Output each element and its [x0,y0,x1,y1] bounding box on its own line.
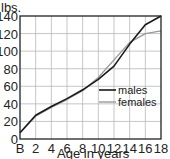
y-tick-label: 20 [4,114,18,129]
x-tick-label: 16 [138,141,152,156]
y-axis-ticks: 020406080100120140 [0,9,18,147]
y-tick-label: 140 [0,9,18,24]
x-axis-title: Age in years [57,146,130,159]
y-tick-label: 80 [4,62,18,77]
x-tick-label: B [16,141,25,156]
females-line [20,31,161,133]
plot-frame [20,16,161,139]
legend-males-label: males [118,84,148,96]
x-tick-label: 4 [48,141,55,156]
x-tick-label: 18 [154,141,168,156]
y-tick-label: 100 [0,44,18,59]
legend: males females [99,84,157,108]
legend-females-label: females [118,96,157,108]
x-tick-label: 2 [32,141,39,156]
y-tick-label: 60 [4,79,18,94]
grid-lines [20,16,161,139]
y-tick-label: 40 [4,97,18,112]
growth-chart: lbs. 020406080100120140 B24681012141618 … [0,0,170,159]
y-tick-label: 120 [0,27,18,42]
